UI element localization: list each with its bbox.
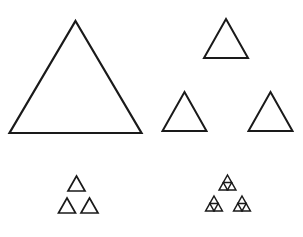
figure-background <box>0 0 303 237</box>
sierpinski-figure <box>0 0 303 237</box>
figure-canvas <box>0 0 303 237</box>
